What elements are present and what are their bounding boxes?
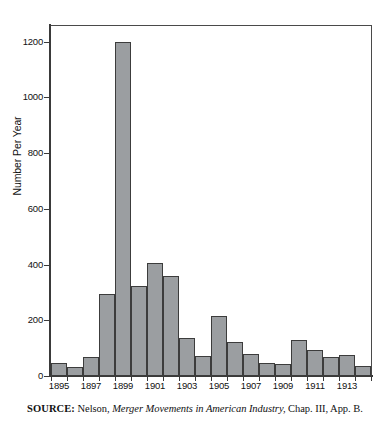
y-axis-tick-label: 200 — [28, 315, 43, 325]
bar — [115, 42, 131, 376]
y-axis-tick-label: 1000 — [23, 92, 43, 102]
y-axis-tick-label: 600 — [28, 204, 43, 214]
x-axis-tick-label: 1899 — [113, 380, 133, 391]
bar — [99, 294, 115, 376]
source-title: Merger Movements in American Industry, — [112, 403, 285, 414]
y-axis-tick — [44, 153, 51, 154]
bar — [67, 367, 83, 376]
y-axis-tick — [44, 42, 51, 43]
y-axis-tick — [44, 320, 51, 321]
bar — [355, 366, 371, 376]
bar — [163, 276, 179, 376]
x-axis-tick-label: 1895 — [49, 380, 69, 391]
bar — [259, 363, 275, 376]
bar — [195, 356, 211, 376]
bar — [227, 342, 243, 376]
source-note: SOURCE: Nelson, Merger Movements in Amer… — [27, 402, 379, 415]
x-axis-tick — [371, 377, 372, 381]
y-axis-tick — [44, 376, 51, 377]
bar — [339, 355, 355, 376]
bar — [243, 354, 259, 376]
y-axis-tick-label: 0 — [38, 371, 43, 381]
y-axis-tick — [44, 265, 51, 266]
bar — [131, 286, 147, 376]
merger-movements-figure: Number Per Year 020040060080010001200 18… — [0, 0, 387, 429]
y-axis-tick — [44, 209, 51, 210]
y-axis-tick-label: 800 — [28, 148, 43, 158]
bar — [179, 338, 195, 376]
x-axis-tick-label: 1911 — [305, 380, 325, 391]
bar — [275, 364, 291, 376]
x-axis-tick-label: 1907 — [241, 380, 261, 391]
x-axis-tick-label: 1913 — [337, 380, 357, 391]
bar — [83, 357, 99, 376]
bar — [291, 340, 307, 376]
y-axis-tick-label: 1200 — [23, 37, 43, 47]
y-axis-title: Number Per Year — [11, 101, 23, 211]
bar — [323, 357, 339, 376]
source-locator: Chap. III, App. B. — [288, 403, 363, 414]
x-axis-tick-label: 1897 — [81, 380, 101, 391]
x-axis-tick-label: 1901 — [145, 380, 165, 391]
bar-series — [51, 26, 371, 376]
x-axis-tick-label: 1905 — [209, 380, 229, 391]
bar — [211, 316, 227, 376]
x-axis-tick-label: 1909 — [273, 380, 293, 391]
bar — [307, 350, 323, 376]
source-keyword: SOURCE: — [27, 403, 75, 414]
bar — [51, 363, 67, 376]
x-axis-tick-label: 1903 — [177, 380, 197, 391]
y-axis-tick-label: 400 — [28, 260, 43, 270]
y-axis-tick — [44, 97, 51, 98]
bar — [147, 263, 163, 376]
source-author: Nelson, — [78, 403, 110, 414]
